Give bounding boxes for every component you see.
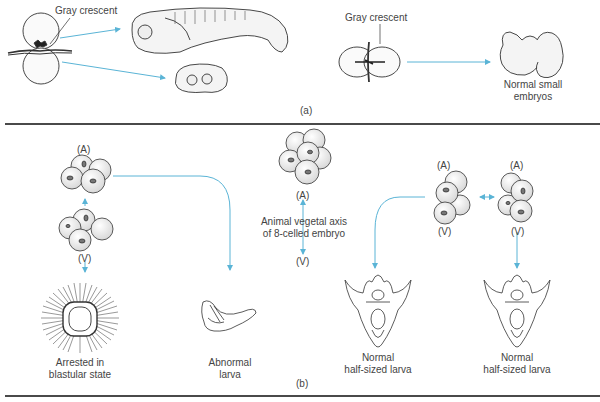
arrested-blastula-drawing <box>41 283 119 353</box>
eight-cell-embryo-left-bottom <box>59 209 113 251</box>
abnormal-mass-drawing <box>175 64 227 93</box>
half-sized-larva-drawing-1 <box>345 275 411 347</box>
ligated-egg-right <box>339 42 400 82</box>
half-larva-label-2: Normal half-sized larva <box>477 352 557 376</box>
normal-small-embryos-label: Normal small embryos <box>502 79 564 103</box>
normal-small-embryos-line1: Normal small <box>502 79 564 91</box>
abnormal-larva-label: Abnormal larva <box>195 357 265 381</box>
half-larva-2-line1: Normal <box>477 352 557 364</box>
half-larva-2-line2: half-sized larva <box>477 364 557 376</box>
pole-label-center-a: (A) <box>296 190 309 202</box>
pole-label-center-v: (V) <box>296 256 309 268</box>
ligated-egg-left <box>8 13 72 84</box>
pole-label-left-top-a: (A) <box>77 144 90 156</box>
normal-small-embryos-drawing <box>500 32 563 78</box>
half-larva-1-line1: Normal <box>338 352 418 364</box>
half-larva-1-line2: half-sized larva <box>338 364 418 376</box>
arrested-line2: blastular state <box>40 369 120 381</box>
axis-line1: Animal vegetal axis <box>256 216 352 228</box>
pole-label-right-a-1: (A) <box>437 160 450 172</box>
arrested-line1: Arrested in <box>40 357 120 369</box>
arrested-label: Arrested in blastular state <box>40 357 120 381</box>
axis-label: Animal vegetal axis of 8-celled embryo <box>256 216 352 240</box>
panel-a-label: (a) <box>300 105 312 117</box>
half-sized-larva-drawing-2 <box>484 275 550 347</box>
pole-label-right-v-1: (V) <box>438 226 451 238</box>
panel-b-label: (b) <box>296 378 308 390</box>
abnormal-larva-line2: larva <box>195 369 265 381</box>
divider-bottom <box>5 395 600 397</box>
pole-label-right-a-2: (A) <box>510 160 523 172</box>
normal-small-embryos-line2: embryos <box>502 91 564 103</box>
axis-line2: of 8-celled embryo <box>256 228 352 240</box>
pole-label-right-v-2: (V) <box>511 226 524 238</box>
half-larva-label-1: Normal half-sized larva <box>338 352 418 376</box>
normal-embryo-drawing <box>132 8 288 53</box>
eight-cell-embryo-center <box>279 129 331 184</box>
eight-cell-embryo-right-b <box>498 173 533 222</box>
abnormal-larva-drawing <box>202 301 256 331</box>
gray-crescent-label-right: Gray crescent <box>345 12 407 24</box>
divider-top <box>5 123 600 125</box>
eight-cell-embryo-left-top <box>61 155 111 193</box>
gray-crescent-label-left: Gray crescent <box>55 5 117 17</box>
pole-label-left-bottom-v: (V) <box>78 253 91 265</box>
abnormal-larva-line1: Abnormal <box>195 357 265 369</box>
eight-cell-embryo-right-a <box>434 171 470 224</box>
